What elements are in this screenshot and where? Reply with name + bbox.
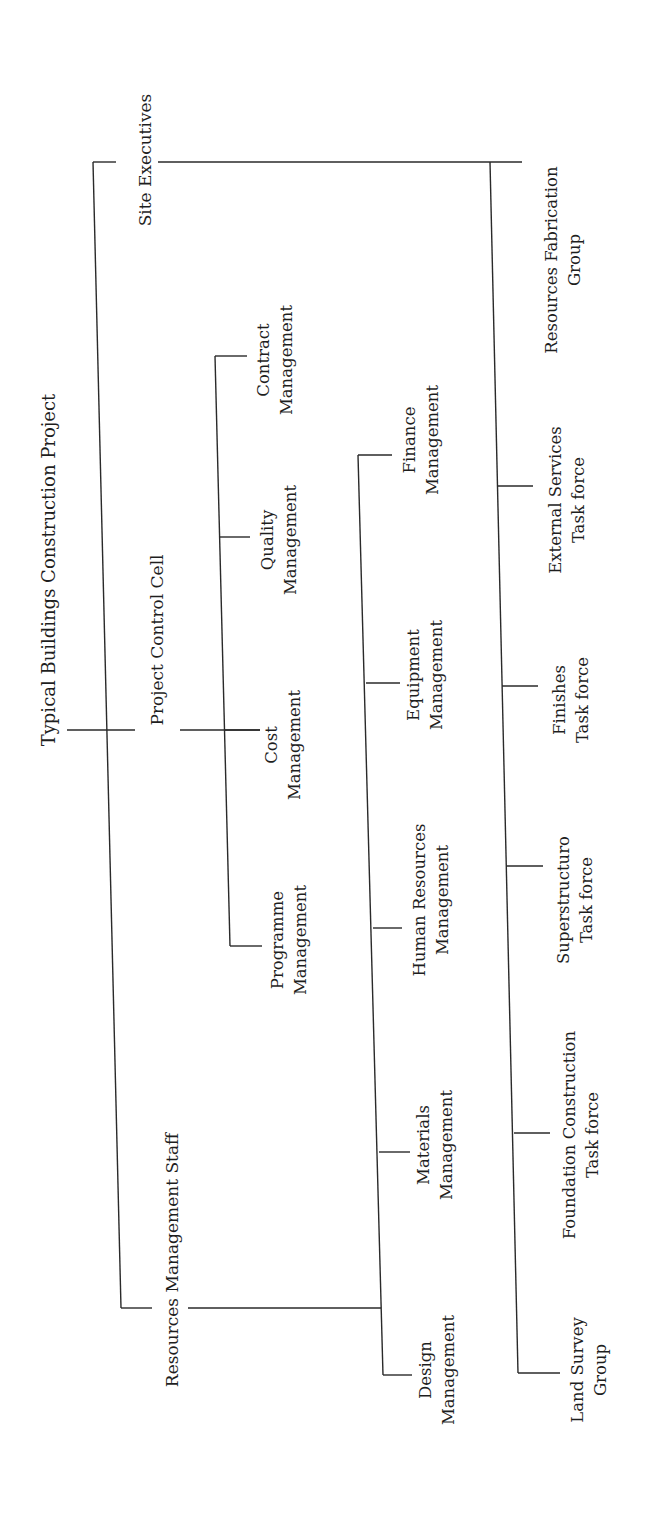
node-finance-management: Finance Management <box>398 360 444 520</box>
node-human-resources-management: Human Resources Management <box>408 800 454 1000</box>
org-chart: Typical Buildings Construction Project S… <box>0 0 660 1539</box>
node-contract-management: Contract Management <box>252 280 298 440</box>
node-programme-management: Programme Management <box>266 860 312 1020</box>
node-equipment-management: Equipment Management <box>402 595 448 755</box>
node-finishes-task-force: Finishes Task force <box>548 620 594 780</box>
pcc-bus <box>215 356 230 946</box>
main-bus-line <box>93 162 121 1308</box>
resources-management-staff-label: Resources Management Staff <box>161 1000 183 1520</box>
node-resources-fabrication-group: Resources Fabrication Group <box>540 100 586 420</box>
site-executives-label: Site Executives <box>134 60 156 260</box>
node-foundation-construction-task-force: Foundation Construction Task force <box>558 995 604 1275</box>
node-cost-management: Cost Management <box>260 665 306 825</box>
node-quality-management: Quality Management <box>256 460 302 620</box>
node-land-survey-group: Land Survey Group <box>566 1290 612 1450</box>
node-superstructure-task-force: Superstructuro Task force <box>552 800 598 1000</box>
resources-bus <box>358 455 383 1375</box>
project-control-cell-label: Project Control Cell <box>146 530 168 750</box>
node-external-services-task-force: External Services Task force <box>544 400 590 600</box>
root-title: Typical Buildings Construction Project <box>38 370 60 770</box>
node-design-management: Design Management <box>414 1290 460 1450</box>
node-materials-management: Materials Management <box>412 1065 458 1225</box>
taskforce-bus <box>490 162 518 1373</box>
root-title-text: Typical Buildings Construction Project <box>38 370 60 770</box>
